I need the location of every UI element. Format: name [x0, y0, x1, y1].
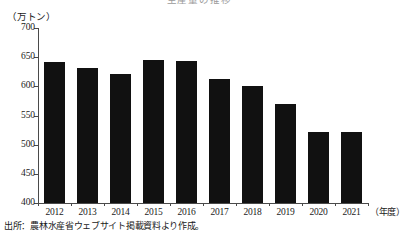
bar-2012	[44, 62, 65, 203]
x-tick-mark	[335, 203, 336, 206]
bar-column	[308, 28, 329, 203]
source-note: 出所：農林水産省ウェブサイト掲載資料より作成。	[4, 222, 204, 232]
y-tick-label: 550	[21, 111, 35, 121]
chart-title-clipped: 生産量の推移	[0, 0, 398, 4]
x-tick-mark	[302, 203, 303, 206]
y-tick-label: 500	[21, 140, 35, 150]
bar-column	[209, 28, 230, 203]
y-tick-label: 700	[21, 23, 35, 33]
x-tick-mark	[71, 203, 72, 206]
x-tick-mark	[104, 203, 105, 206]
y-tick-label: 600	[21, 82, 35, 92]
x-tick-label: 2021	[332, 208, 372, 218]
bar-column	[341, 28, 362, 203]
bar-column	[110, 28, 131, 203]
x-tick-mark	[137, 203, 138, 206]
x-axis-unit-label: （年度）	[370, 208, 404, 217]
bar-2017	[209, 79, 230, 203]
bar-2014	[110, 74, 131, 203]
x-tick-mark	[368, 203, 369, 206]
chart-title-text: 生産量の推移	[167, 0, 232, 4]
bar-column	[176, 28, 197, 203]
x-tick-mark	[269, 203, 270, 206]
plot-area: 400450500550600650700 201220132014201520…	[38, 28, 368, 203]
bar-column	[77, 28, 98, 203]
x-tick-mark	[170, 203, 171, 206]
y-tick-label: 450	[21, 169, 35, 179]
x-tick-mark	[38, 203, 39, 206]
bar-column	[242, 28, 263, 203]
bar-column	[44, 28, 65, 203]
bar-column	[143, 28, 164, 203]
bar-series	[38, 28, 368, 203]
bar-column	[275, 28, 296, 203]
bar-2013	[77, 68, 98, 203]
x-tick-mark	[203, 203, 204, 206]
bar-2018	[242, 86, 263, 203]
bar-2021	[341, 132, 362, 203]
y-tick-label: 400	[21, 198, 35, 208]
y-axis-unit-label: （万トン）	[7, 9, 56, 23]
x-tick-mark	[236, 203, 237, 206]
bar-2019	[275, 104, 296, 203]
bar-2015	[143, 60, 164, 204]
y-tick-label: 650	[21, 52, 35, 62]
bar-2020	[308, 132, 329, 203]
bar-2016	[176, 61, 197, 203]
